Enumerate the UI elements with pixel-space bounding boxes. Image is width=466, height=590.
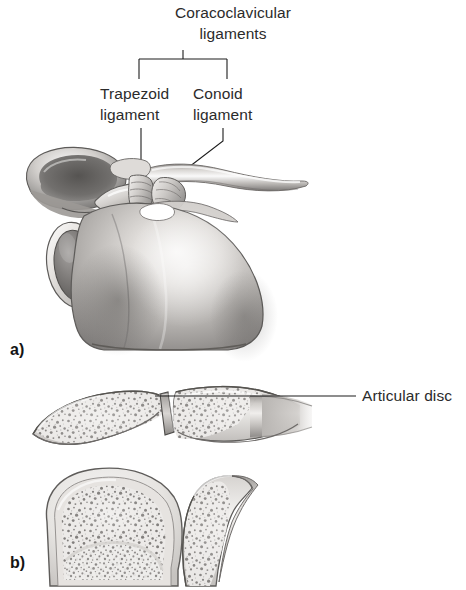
conoid-label-line1: Conoid	[193, 85, 243, 102]
glenoid-section	[176, 474, 266, 590]
scapula-body	[71, 203, 278, 362]
clavicle-section	[168, 382, 312, 446]
conoid-label-line2: ligament	[193, 106, 253, 123]
panel-b-letter: b)	[10, 554, 25, 571]
suprascapular-notch	[140, 204, 175, 221]
articular-disc-label: Articular disc	[362, 387, 452, 404]
coracoclavicular-label-line1: Coracoclavicular	[175, 4, 291, 21]
panel-a-annotations: Coracoclavicular ligaments Trapezoid lig…	[100, 4, 291, 180]
trapezoid-label-line2: ligament	[100, 106, 160, 123]
coracoclavicular-label-line2: ligaments	[199, 25, 266, 42]
articular-disc	[160, 392, 174, 435]
humeral-head-section	[46, 468, 182, 586]
coracoclavicular-bracket	[139, 50, 227, 79]
figure-root: Coracoclavicular ligaments Trapezoid lig…	[0, 0, 466, 590]
panel-a-letter: a)	[10, 341, 24, 358]
panel-a-illustration: a)	[10, 147, 308, 362]
trapezoid-label-line1: Trapezoid	[100, 85, 169, 102]
panel-b-illustration: b)	[10, 382, 312, 590]
acromion-section	[28, 388, 168, 448]
anatomy-figure-svg: Coracoclavicular ligaments Trapezoid lig…	[0, 0, 466, 590]
